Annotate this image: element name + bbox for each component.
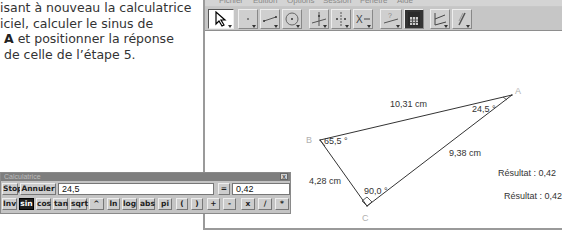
result-output[interactable]: 0,42 bbox=[232, 183, 290, 195]
key-open-paren[interactable]: ( bbox=[176, 198, 188, 210]
calculator-title-bar[interactable]: Calculatrice bbox=[1, 173, 290, 181]
result-label-2[interactable]: Résultat : 0,42 bbox=[504, 191, 562, 201]
vertex-label-c[interactable]: C bbox=[362, 213, 369, 223]
key-sin[interactable]: sin bbox=[19, 198, 34, 210]
angle-mark-a bbox=[503, 97, 507, 100]
key-minus[interactable]: - bbox=[223, 198, 236, 210]
angle-c-value[interactable]: 90,0 ° bbox=[364, 186, 388, 196]
key-ln[interactable]: ln bbox=[107, 198, 120, 210]
side-bc[interactable] bbox=[320, 140, 367, 206]
angle-a-value[interactable]: 24,5 ° bbox=[472, 104, 496, 114]
length-ab[interactable]: 10,31 cm bbox=[390, 99, 427, 109]
key-cos[interactable]: cos bbox=[36, 198, 51, 210]
key-log[interactable]: log bbox=[122, 198, 137, 210]
key-asterisk[interactable]: * bbox=[275, 198, 289, 210]
key-divide[interactable]: / bbox=[258, 198, 272, 210]
key-plus[interactable]: + bbox=[207, 198, 220, 210]
key-multiply[interactable]: x bbox=[241, 198, 255, 210]
length-bc[interactable]: 4,28 cm bbox=[309, 176, 341, 186]
close-icon[interactable]: x bbox=[280, 173, 288, 180]
equals-button[interactable]: = bbox=[218, 183, 230, 195]
cancel-button[interactable]: Annuler bbox=[20, 183, 56, 195]
point-a[interactable] bbox=[511, 94, 513, 96]
angle-b-value[interactable]: 65,5 ° bbox=[324, 136, 348, 146]
length-ac[interactable]: 9,38 cm bbox=[449, 148, 481, 158]
key-close-paren[interactable]: ) bbox=[191, 198, 203, 210]
key-abs[interactable]: abs bbox=[139, 198, 155, 210]
calculator-window: Calculatrice x Stop Annuler 24,5 = 0,42 … bbox=[0, 172, 291, 214]
stop-button[interactable]: Stop bbox=[2, 183, 18, 195]
key-sqrt[interactable]: sqrt bbox=[70, 198, 87, 210]
point-b[interactable] bbox=[319, 139, 321, 141]
vertex-label-b[interactable]: B bbox=[306, 135, 312, 145]
key-power[interactable]: ^ bbox=[89, 198, 104, 210]
key-inv[interactable]: Inv bbox=[2, 198, 17, 210]
point-c[interactable] bbox=[366, 205, 368, 207]
key-pi[interactable]: pi bbox=[158, 198, 172, 210]
key-tan[interactable]: tan bbox=[53, 198, 68, 210]
expression-input[interactable]: 24,5 bbox=[58, 183, 214, 195]
result-label-1[interactable]: Résultat : 0,42 bbox=[498, 168, 556, 178]
vertex-label-a[interactable]: A bbox=[515, 86, 521, 96]
